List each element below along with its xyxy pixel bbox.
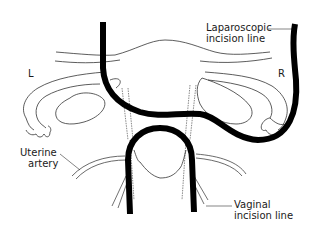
uterine-artery-label-line1: Uterine [20,147,57,158]
right-side-label: R [278,68,285,79]
left-uterine-artery [72,156,126,179]
right-uterine-artery [196,154,246,176]
anatomical-diagram: L R Laparoscopic incision line Uterine a… [0,0,328,227]
left-ovary [56,93,105,124]
laparoscopic-label-line1: Laparoscopic [206,22,272,33]
vaginal-label-line1: Vaginal [234,199,271,210]
laparoscopic-label-line2: incision line [206,33,265,44]
uterine-artery-label-line2: artery [28,158,58,169]
right-fallopian-tube [205,72,287,135]
left-side-label: L [28,68,34,79]
diagram-drawing [0,0,328,227]
vaginal-label-line2: incision line [234,210,293,221]
cervix [134,150,186,178]
